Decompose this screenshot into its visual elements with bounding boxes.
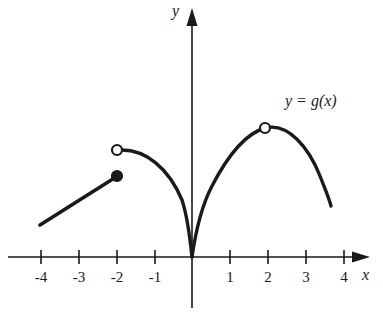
curve-equation-label: y = g(x) <box>285 92 337 110</box>
x-tick-label-4: 4 <box>329 269 359 286</box>
y-axis-label: y <box>172 2 179 20</box>
open-circle-point-right <box>260 123 270 133</box>
x-tick-label--2: -2 <box>102 269 132 286</box>
y-axis-arrowhead <box>187 8 198 26</box>
closed-circle-point <box>112 171 123 182</box>
x-tick-label-3: 3 <box>291 269 321 286</box>
curve-right-arc <box>192 127 331 257</box>
graph-canvas <box>0 0 383 326</box>
curve-linear-segment <box>40 177 116 225</box>
curve-left-arc <box>122 150 192 257</box>
x-tick-label-1: 1 <box>215 269 245 286</box>
x-tick-label--1: -1 <box>140 269 170 286</box>
x-axis-arrowhead <box>352 252 370 263</box>
x-tick-label--4: -4 <box>26 269 56 286</box>
x-axis-label: x <box>362 266 369 284</box>
x-tick-label--3: -3 <box>64 269 94 286</box>
open-circle-point-left <box>112 145 122 155</box>
function-graph-figure: -4 -3 -2 -1 1 2 3 4 x y y = g(x) <box>0 0 383 326</box>
x-tick-label-2: 2 <box>253 269 283 286</box>
